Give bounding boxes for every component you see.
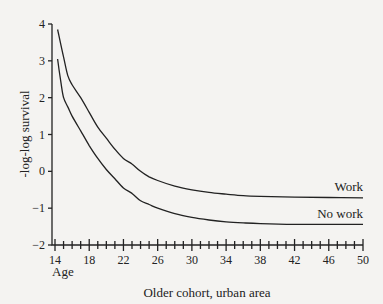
x-tick-label: 30 — [186, 253, 198, 267]
x-tick-label: 26 — [152, 253, 164, 267]
x-tick-label: 18 — [83, 253, 95, 267]
x-tick-label: 50 — [357, 253, 369, 267]
y-tick-label: 0 — [39, 164, 45, 178]
y-tick-label: −2 — [32, 238, 45, 252]
y-tick-label: −1 — [32, 201, 45, 215]
series-label-no-work: No work — [317, 206, 363, 221]
x-tick-label: 46 — [323, 253, 335, 267]
series-label-work: Work — [334, 179, 363, 194]
y-tick-label: 4 — [39, 17, 45, 31]
curve-work — [58, 30, 363, 198]
curves — [58, 30, 363, 225]
x-tick-label: 34 — [220, 253, 232, 267]
x-axis-label: Age — [52, 264, 74, 279]
y-tick-label: 2 — [39, 91, 45, 105]
survival-chart: 43210−1−2 14182226303438424650 Work No w… — [0, 0, 383, 304]
y-axis-label: -log-log survival — [17, 90, 32, 177]
y-tick-label: 3 — [39, 54, 45, 68]
x-tick-label: 38 — [254, 253, 266, 267]
y-axis-ticks: 43210−1−2 — [32, 17, 52, 252]
chart-caption: Older cohort, urban area — [143, 285, 270, 300]
x-axis-ticks: 14182226303438424650 — [49, 239, 369, 267]
y-tick-label: 1 — [39, 128, 45, 142]
x-tick-label: 22 — [117, 253, 129, 267]
x-tick-label: 42 — [289, 253, 301, 267]
curve-no-work — [58, 59, 363, 224]
